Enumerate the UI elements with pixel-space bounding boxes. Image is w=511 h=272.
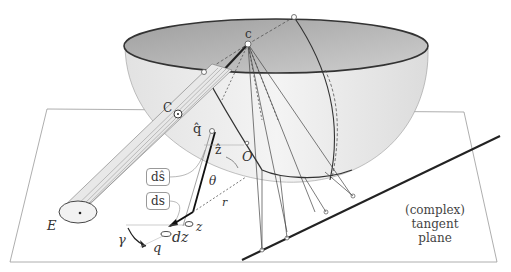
- C-point-center: [177, 113, 179, 115]
- label-theta: θ: [209, 174, 217, 188]
- disc-E-center: [79, 212, 82, 215]
- label-q: q: [153, 240, 161, 255]
- rim-point-back: [292, 15, 297, 20]
- label-z-hat: ẑ: [215, 143, 221, 157]
- plane-caption-line2: tangent plane: [394, 217, 476, 245]
- label-gamma: γ: [118, 232, 126, 247]
- rim-point-left: [202, 70, 207, 75]
- label-ds-hat: dŝ: [146, 168, 170, 186]
- label-C: C: [163, 101, 172, 115]
- label-r: r: [222, 196, 228, 209]
- disc-E: [59, 201, 97, 223]
- label-dz: dz: [172, 229, 189, 245]
- label-ds: ds: [146, 192, 170, 210]
- q-point: [161, 232, 171, 237]
- plane-caption-line1: (complex): [394, 203, 476, 217]
- z-point: [185, 222, 193, 227]
- q-hat-point: [210, 129, 215, 134]
- label-z: z: [195, 220, 203, 234]
- c-top-point: [245, 41, 251, 47]
- plane-caption: (complex) tangent plane: [394, 203, 476, 245]
- label-c-top: c: [245, 27, 252, 41]
- label-E: E: [46, 218, 57, 233]
- label-q-hat: q̂: [193, 121, 201, 136]
- hemisphere-interior: [124, 19, 428, 73]
- label-O: O: [242, 149, 253, 164]
- O-point: [245, 141, 249, 145]
